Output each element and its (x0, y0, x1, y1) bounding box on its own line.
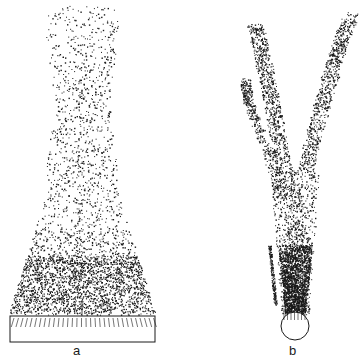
panel-b-label: b (289, 343, 296, 358)
figure: a b (0, 0, 359, 364)
panel-b-plume (241, 12, 358, 340)
panel-a-label: a (73, 343, 80, 358)
panel-a-inflow-ticks (11, 318, 156, 327)
panel-a-particles (10, 6, 156, 316)
panel-a-plume (10, 6, 156, 342)
panel-b-particles (241, 12, 358, 316)
particle-simulation-figure (0, 0, 359, 364)
